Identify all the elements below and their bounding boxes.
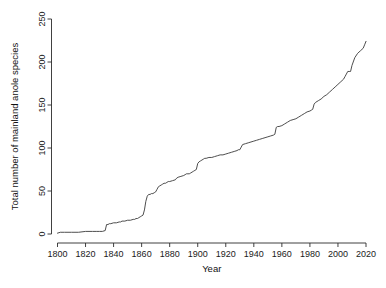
- y-tick-label: 250: [37, 11, 47, 26]
- x-tick-label: 1900: [188, 249, 208, 259]
- y-tick-label: 100: [37, 140, 47, 155]
- x-tick-label: 1840: [104, 249, 124, 259]
- series-line-cumulative-species: [58, 41, 367, 233]
- y-axis-ticks: 050100150200250: [37, 11, 52, 236]
- y-tick-label: 200: [37, 54, 47, 69]
- y-tick-label: 0: [37, 231, 47, 236]
- x-tick-label: 1980: [300, 249, 320, 259]
- chart-container: 050100150200250 180018201840186018801900…: [0, 0, 386, 288]
- x-tick-label: 2000: [328, 249, 348, 259]
- x-tick-label: 1940: [244, 249, 264, 259]
- x-tick-label: 2020: [356, 249, 376, 259]
- y-axis-title: Total number of mainland anole species: [9, 43, 20, 211]
- x-tick-label: 1920: [216, 249, 236, 259]
- x-tick-label: 1860: [132, 249, 152, 259]
- x-axis-ticks: 1800182018401860188019001920194019601980…: [47, 243, 376, 259]
- x-tick-label: 1880: [160, 249, 180, 259]
- y-tick-label: 150: [37, 97, 47, 112]
- x-tick-label: 1820: [76, 249, 96, 259]
- x-tick-label: 1800: [47, 249, 67, 259]
- y-tick-label: 50: [37, 186, 47, 196]
- line-chart: 050100150200250 180018201840186018801900…: [0, 0, 386, 288]
- x-tick-label: 1960: [272, 249, 292, 259]
- x-axis-title: Year: [202, 263, 221, 274]
